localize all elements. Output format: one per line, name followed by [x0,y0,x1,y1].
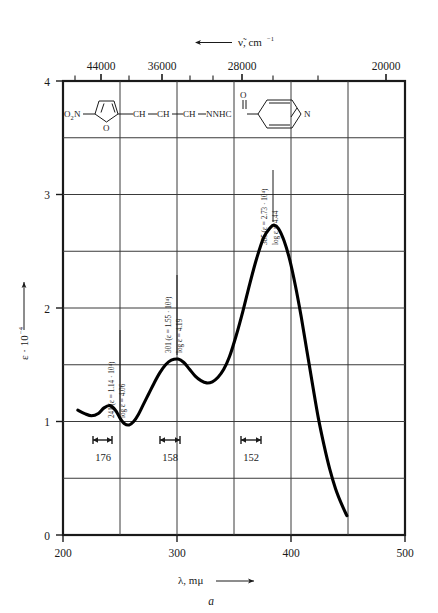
peak-241-line2: log ε = 4.06 [119,383,127,418]
bottom-tick-label-400: 400 [282,547,300,559]
top-tick-label-44000: 44000 [87,60,116,72]
left-tick-label-0: 0 [44,530,50,542]
structure-label-ch-3: CH [183,109,196,119]
left-tick-label-1: 1 [44,416,50,428]
width-label-158: 158 [162,452,178,463]
width-label-152: 152 [243,452,259,463]
left-tick-label-2: 2 [44,303,50,315]
bottom-axis-title-text: λ, mμ [178,574,203,586]
left-axis-title-text: ε · 10 [18,335,30,360]
chemical-structure-diagram: O 2 N O CH CH CH NNHC O [64,90,311,133]
top-tick-label-20000: 20000 [372,60,401,72]
peak-annotation-385: 385 (ε = 2.73 · 10⁴) log ε = 4.44 [261,170,280,245]
bottom-tick-label-200: 200 [54,547,72,559]
peak-annotation-301: 301 (ε = 1.55 · 10⁴) log ε = 4.19 [165,275,184,355]
left-axis-title-sup: −4 [17,326,24,334]
peak-301-line1: 301 (ε = 1.55 · 10⁴) [165,296,173,353]
top-axis-tick-labels: 44000 36000 28000 20000 [87,60,401,72]
left-axis-title: ε · 10 −4 [17,282,30,360]
peak-301-line2: log ε = 4.19 [176,318,184,353]
spectrum-figure: ν̃, cm −1 44000 36000 28000 20000 [0,0,438,613]
bottom-tick-label-300: 300 [168,547,186,559]
left-axis-tick-labels: 4 3 2 1 0 [44,76,50,542]
top-tick-label-36000: 36000 [148,60,177,72]
spectrum-curve [78,225,347,516]
left-tick-label-4: 4 [44,76,50,88]
structure-label-pyridine-n: N [304,109,311,119]
left-tick-label-3: 3 [44,189,50,201]
top-axis-title: ν̃, cm −1 [196,35,274,48]
top-tick-label-28000: 28000 [228,60,257,72]
structure-label-nitro-n: N [74,109,81,119]
bottom-tick-label-500: 500 [396,547,414,559]
width-label-176: 176 [95,452,111,463]
bottom-axis-title: λ, mμ [178,574,254,586]
width-marker-152 [241,436,261,444]
top-axis-title-sup: −1 [267,35,274,42]
figure-svg: ν̃, cm −1 44000 36000 28000 20000 [0,0,438,613]
structure-label-ch-1: CH [133,109,146,119]
furan-ring [95,101,118,122]
structure-label-ch-2: CH [157,109,170,119]
structure-label-amide: NNHC [206,109,232,119]
top-axis-title-text: ν̃, cm [238,36,262,48]
width-marker-176 [93,436,112,444]
bottom-axis-tick-labels: 200 300 400 500 [54,547,414,559]
carbonyl-double-bond [243,100,246,109]
structure-label-carbonyl-o: O [240,90,247,100]
structure-label-furan-o: O [103,123,110,133]
panel-letter: a [208,595,214,607]
pyridine-ring [258,100,301,128]
